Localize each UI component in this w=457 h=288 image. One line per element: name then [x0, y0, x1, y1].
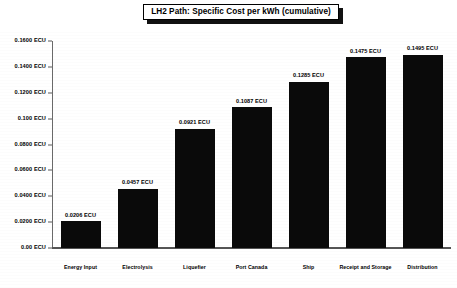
y-axis-tick-label: 0.1400 ECU	[0, 64, 46, 70]
y-axis-tick-label: 0.00 ECU	[0, 245, 46, 251]
bar-group: 0.0206 ECUEnergy Input	[52, 41, 109, 248]
y-axis-tick-label: 0.0800 ECU	[0, 142, 46, 148]
chart-title-box: LH2 Path: Specific Cost per kWh (cumulat…	[143, 4, 339, 20]
bar-value-label: 0.1495 ECU	[407, 46, 438, 52]
bar-value-label: 0.1475 ECU	[350, 49, 381, 55]
bar-series: 0.0206 ECUEnergy Input0.0457 ECUElectrol…	[52, 41, 451, 248]
y-axis-tick-label: 0.0200 ECU	[0, 219, 46, 225]
bar-group: 0.1285 ECUShip	[280, 41, 337, 248]
x-axis-category-label: Port Canada	[236, 265, 268, 270]
bar-value-label: 0.1087 ECU	[236, 99, 267, 105]
bar-value-label: 0.0921 ECU	[179, 120, 210, 126]
x-axis-category-label: Ship	[303, 265, 315, 270]
bar[interactable]	[118, 189, 158, 248]
bar-group: 0.0457 ECUElectrolysis	[109, 41, 166, 248]
y-axis-tick-label: 0.0400 ECU	[0, 193, 46, 199]
x-axis-category-label: Receipt and Storage	[339, 265, 391, 270]
bar[interactable]	[232, 107, 272, 248]
bar-group: 0.1495 ECUDistribution	[394, 41, 451, 248]
bar[interactable]	[61, 221, 101, 248]
y-axis-tick-label: 0.0600 ECU	[0, 168, 46, 174]
x-axis-category-label: Energy Input	[64, 265, 97, 270]
x-axis-category-label: Distribution	[407, 265, 437, 270]
y-axis-tick-label: 0.1600 ECU	[0, 38, 46, 44]
page-title: LH2 Path: Specific Cost per kWh (cumulat…	[151, 8, 331, 16]
bar[interactable]	[403, 55, 443, 248]
bar[interactable]	[289, 82, 329, 248]
y-axis-tick-label: 0.100 ECU	[0, 116, 46, 122]
bar[interactable]	[175, 129, 215, 248]
bar-group: 0.1475 ECUReceipt and Storage	[337, 41, 394, 248]
bar-value-label: 0.1285 ECU	[293, 73, 324, 79]
chart-title-container: LH2 Path: Specific Cost per kWh (cumulat…	[143, 4, 339, 20]
bar-value-label: 0.0206 ECU	[65, 213, 96, 219]
x-axis-category-label: Electrolysis	[122, 265, 152, 270]
bar-group: 0.0921 ECULiquefier	[166, 41, 223, 248]
bar-value-label: 0.0457 ECU	[122, 180, 153, 186]
bar[interactable]	[346, 57, 386, 248]
x-axis-category-label: Liquefier	[183, 265, 206, 270]
y-axis-tick-label: 0.1200 ECU	[0, 90, 46, 96]
chart-plot-area: 0.00 ECU0.0200 ECU0.0400 ECU0.0600 ECU0.…	[0, 30, 457, 288]
bar-group: 0.1087 ECUPort Canada	[223, 41, 280, 248]
